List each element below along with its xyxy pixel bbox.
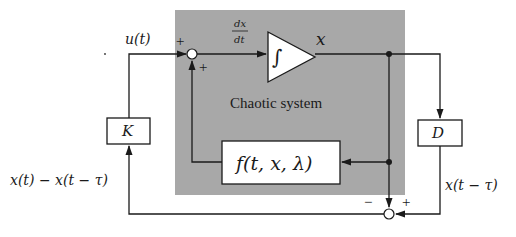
bottom-sum-junction: [384, 209, 394, 219]
state-label: x: [316, 29, 326, 49]
delay-label: D: [431, 124, 444, 142]
derivative-numerator: dx: [234, 18, 246, 29]
integral-icon: ∫: [272, 45, 282, 69]
nonlinear-function-label: f(t, x, λ): [234, 152, 312, 174]
top-sum-junction: [187, 49, 197, 59]
top-sum-sign-bottom: +: [199, 59, 207, 75]
stray-dot: [104, 53, 106, 55]
system-label: Chaotic system: [230, 95, 322, 111]
block-diagram: u(t) + + dx dt ∫ x Chaotic system f(t, x…: [0, 0, 516, 237]
bottom-sum-sign-minus: −: [364, 194, 372, 210]
top-sum-sign-left: +: [176, 33, 184, 49]
delayed-label: x(t − τ): [445, 177, 498, 193]
derivative-denominator: dt: [234, 34, 245, 45]
difference-label: x(t) − x(t − τ): [10, 172, 108, 188]
gain-label: K: [121, 122, 134, 140]
input-label: u(t): [125, 31, 151, 47]
bottom-sum-sign-plus: +: [402, 194, 410, 210]
